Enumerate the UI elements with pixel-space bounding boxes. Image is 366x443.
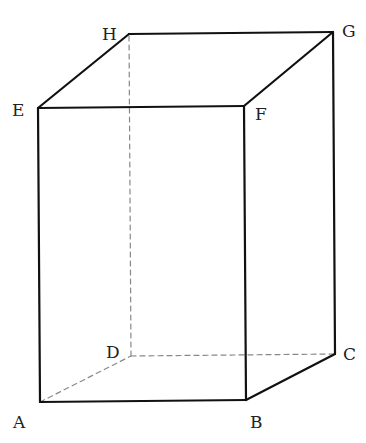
vertex-label-C: C	[343, 344, 356, 364]
diagram-canvas: ABCDEFGH	[0, 0, 366, 443]
edge-HE	[38, 34, 129, 108]
vertex-label-H: H	[102, 24, 117, 44]
hidden-edge-DH	[129, 34, 131, 356]
vertex-label-G: G	[342, 21, 356, 41]
edge-CG	[333, 32, 335, 354]
edge-FB	[244, 106, 246, 400]
vertex-label-D: D	[106, 342, 120, 362]
vertex-label-B: B	[250, 412, 263, 432]
vertex-label-A: A	[12, 412, 26, 432]
rectangular-prism-diagram: ABCDEFGH	[0, 0, 366, 443]
vertex-label-E: E	[12, 100, 24, 120]
edge-AB	[40, 400, 246, 402]
edge-BC	[246, 354, 335, 400]
edge-EA	[38, 108, 40, 402]
hidden-edge-DC	[131, 354, 335, 356]
hidden-edge-AD	[40, 356, 131, 402]
vertex-label-F: F	[255, 104, 267, 124]
edge-EF	[38, 106, 244, 108]
edge-GH	[129, 32, 333, 34]
edge-FG	[244, 32, 333, 106]
